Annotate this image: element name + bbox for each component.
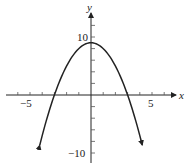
parabola-chart: y x −5 5 10 −10 [0, 0, 193, 165]
y-tick-label-neg10: −10 [68, 147, 86, 159]
axes [6, 13, 176, 163]
y-axis-label: y [86, 1, 92, 13]
x-axis-label: x [178, 89, 184, 101]
y-tick-label-10: 10 [77, 31, 89, 43]
x-tick-label-neg5: −5 [20, 97, 32, 109]
x-tick-label-5: 5 [148, 97, 154, 109]
